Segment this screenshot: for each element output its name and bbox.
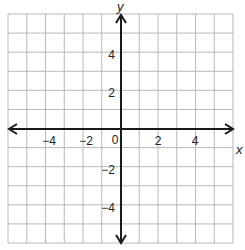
y-tick-label: 4: [108, 48, 115, 62]
origin-label: 0: [112, 133, 119, 147]
y-tick-label: −2: [101, 163, 115, 177]
x-tick-label: −4: [42, 134, 56, 148]
y-tick-label: 2: [108, 86, 115, 100]
x-tick-label: 4: [192, 134, 199, 148]
coordinate-plane: y x −4 −2 0 2 4 4 2 −2 −4: [0, 0, 245, 250]
y-tick-label: −4: [101, 201, 115, 215]
x-tick-label: 2: [155, 134, 162, 148]
y-axis-label: y: [116, 0, 125, 14]
x-tick-label: −2: [79, 134, 93, 148]
coordinate-plane-svg: y x −4 −2 0 2 4 4 2 −2 −4: [0, 0, 245, 250]
x-axis-label: x: [235, 142, 243, 157]
